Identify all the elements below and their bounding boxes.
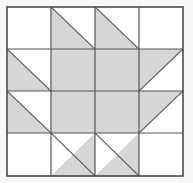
quilt-block-canvas bbox=[0, 0, 193, 183]
quilt-block-figure bbox=[0, 0, 193, 183]
